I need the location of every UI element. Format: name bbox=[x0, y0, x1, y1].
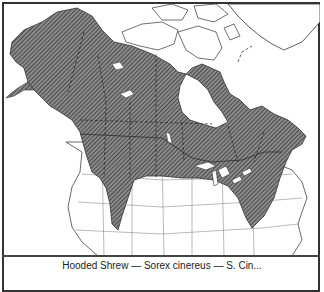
north-america-map bbox=[2, 2, 320, 256]
greenland bbox=[228, 4, 320, 50]
alaska-peninsula bbox=[6, 82, 34, 98]
range-map bbox=[2, 2, 320, 256]
map-caption: Hooded Shrew — Sorex cinereus — S. Cin..… bbox=[0, 260, 324, 271]
caption-divider bbox=[2, 255, 320, 257]
